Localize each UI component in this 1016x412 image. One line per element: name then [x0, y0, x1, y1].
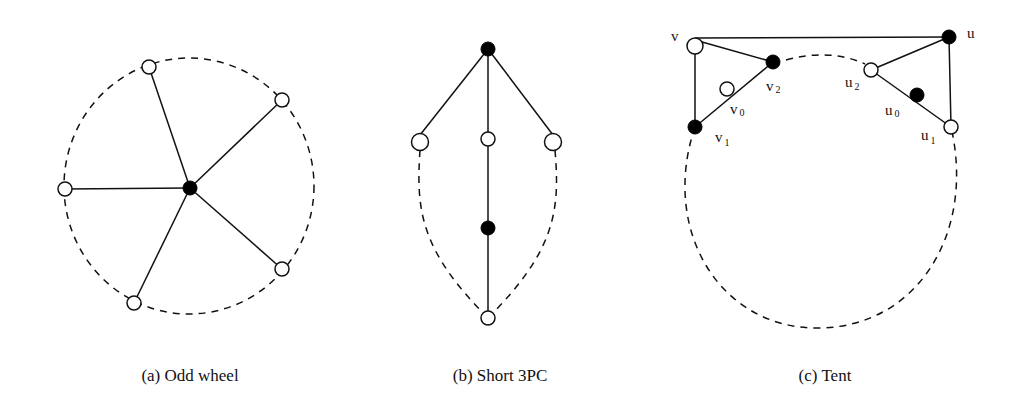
figure-canvas: (a) Odd wheel (b) Short 3PC v	[0, 0, 1016, 412]
u-u2-edge	[871, 37, 949, 70]
vertex-v	[687, 38, 703, 54]
middle-vertex-open	[481, 132, 495, 146]
tent-figure: v v2 v0 v1 u u2 u0 u1 (c) Tent	[671, 25, 975, 385]
bottom-vertex-open	[481, 311, 495, 325]
vertex-u1	[944, 120, 958, 134]
tent-dashed-upper-arc	[786, 55, 865, 64]
vertex-u2	[864, 63, 878, 77]
v1-v2-edge	[695, 62, 773, 127]
spoke-edge	[190, 100, 282, 188]
spoke-edge	[190, 188, 282, 269]
v-v2-edge	[695, 40, 773, 62]
rim-vertex-open	[275, 93, 289, 107]
top-vertex-filled	[481, 42, 495, 56]
caption-short-3pc: (b) Short 3PC	[453, 366, 547, 385]
vertex-v2	[766, 55, 780, 69]
left-dashed-path	[419, 150, 488, 318]
right-dashed-path	[488, 150, 557, 318]
rim-vertex-open	[275, 262, 289, 276]
caption-odd-wheel: (a) Odd wheel	[141, 366, 239, 385]
spoke-edge	[149, 67, 190, 188]
rim-vertex-open	[142, 60, 156, 74]
u-u1-edge	[949, 37, 951, 127]
path-edge	[420, 49, 488, 135]
path-edge	[488, 49, 553, 135]
vertex-u	[942, 30, 956, 44]
label-u0: u0	[885, 102, 900, 119]
vertex-v1	[688, 120, 702, 134]
spoke-edge	[134, 188, 190, 303]
hub-vertex-filled	[183, 181, 197, 195]
label-v0: v0	[730, 101, 745, 118]
right-vertex-open	[545, 134, 562, 151]
odd-wheel-figure: (a) Odd wheel	[58, 58, 314, 385]
rim-vertex-open	[127, 296, 141, 310]
label-u: u	[967, 25, 975, 41]
left-vertex-open	[412, 134, 429, 151]
label-u1: u1	[921, 127, 936, 146]
label-u2: u2	[845, 74, 860, 92]
vertex-v0	[720, 82, 734, 96]
inner-vertex-filled	[481, 221, 495, 235]
tent-dashed-lower-arc	[685, 127, 957, 328]
rim-vertex-open	[58, 182, 72, 196]
label-v1: v1	[715, 129, 730, 148]
v-u-edge	[695, 37, 949, 38]
label-v2: v2	[766, 78, 781, 95]
spoke-edge	[65, 188, 190, 189]
label-v: v	[671, 28, 679, 44]
caption-tent: (c) Tent	[799, 366, 852, 385]
vertex-u0	[910, 88, 924, 102]
short-3pc-figure: (b) Short 3PC	[412, 42, 562, 385]
